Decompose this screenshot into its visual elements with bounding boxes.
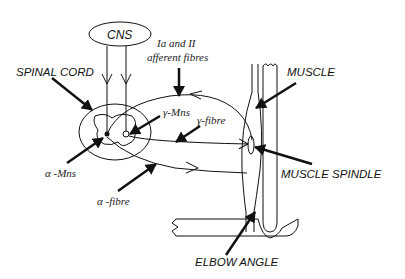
right-arrow-icon	[186, 162, 198, 173]
gamma-fibre-label: γ-fibre	[197, 114, 225, 126]
muscle-spindle	[248, 136, 254, 154]
forearm-break	[172, 219, 178, 236]
muscle-pointer	[256, 83, 296, 108]
cns-label: CNS	[107, 28, 132, 42]
alpha-mns-pointer	[67, 138, 103, 163]
afferent-label-line2: afferent fibres	[147, 51, 208, 63]
alpha-fibre-pointer	[118, 164, 156, 191]
muscle-spindle-label: MUSCLE SPINDLE	[281, 168, 382, 180]
gamma-mns-label: γ-Mns	[163, 106, 190, 118]
muscle-belly	[242, 64, 252, 232]
spinal-cord-label: SPINAL CORD	[16, 66, 94, 78]
gamma-fibre	[129, 136, 248, 144]
gamma-fibre-pointer	[176, 126, 200, 142]
gamma-motoneuron	[123, 131, 129, 137]
alpha-mns-label: α -Mns	[45, 167, 76, 179]
spindle-pointer	[255, 147, 312, 164]
spinal-cord-pointer	[52, 78, 92, 110]
elbow-angle-label: ELBOW ANGLE	[195, 256, 279, 268]
spinal-cord-outline	[79, 104, 151, 160]
elbow-pointer	[226, 212, 255, 255]
bone-break	[263, 64, 277, 66]
forearm	[176, 219, 298, 238]
afferent-label-line1: Ia and II	[156, 37, 197, 49]
reflex-diagram: CNS SPINAL CORD Ia and II afferent fibre…	[0, 0, 405, 279]
alpha-fibre-label: α -fibre	[97, 195, 130, 207]
muscle-label: MUSCLE	[287, 66, 335, 78]
